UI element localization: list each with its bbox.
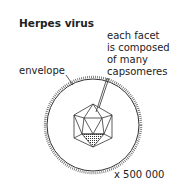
capsid-icosahedron — [74, 104, 112, 147]
facet-leader-line — [99, 78, 109, 108]
herpes-virus-illustration — [0, 0, 184, 188]
envelope-leader-line — [66, 75, 73, 85]
envelope-shape — [45, 77, 141, 173]
